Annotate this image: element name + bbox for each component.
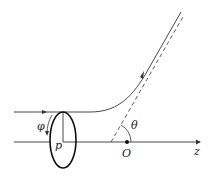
asymptote-dashed bbox=[111, 15, 184, 142]
theta-label: θ bbox=[131, 119, 138, 132]
phi-arrowhead bbox=[45, 131, 49, 136]
theta-arc bbox=[121, 125, 131, 142]
p-label: p bbox=[55, 139, 62, 152]
z-axis-label: z bbox=[193, 145, 200, 158]
scattering-diagram: φ p θ O z bbox=[0, 0, 213, 182]
trajectory-arrow-in bbox=[42, 110, 47, 114]
particle-trajectory bbox=[14, 12, 181, 112]
origin-label: O bbox=[122, 147, 131, 160]
origin-point bbox=[125, 140, 129, 144]
phi-label: φ bbox=[37, 120, 45, 133]
